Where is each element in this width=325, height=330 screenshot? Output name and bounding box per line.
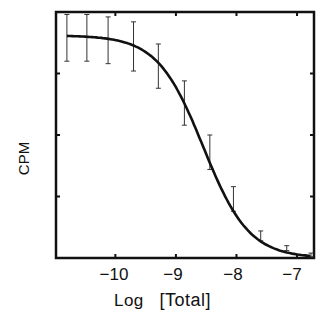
x-tick-label: −8 — [223, 265, 242, 285]
y-axis-label: CPM — [15, 134, 32, 184]
x-tick-label: −10 — [100, 265, 129, 285]
error-bars — [64, 14, 313, 256]
x-axis-label: Log [Total] — [0, 290, 325, 311]
plot-frame — [56, 12, 314, 258]
x-tick-label: −7 — [282, 265, 301, 285]
x-tick-label: −9 — [163, 265, 182, 285]
y-axis-ticks — [56, 74, 314, 197]
x-axis-label-log: Log — [114, 291, 144, 310]
x-axis-label-total: [Total] — [160, 290, 212, 310]
fitted-curve — [67, 36, 311, 256]
